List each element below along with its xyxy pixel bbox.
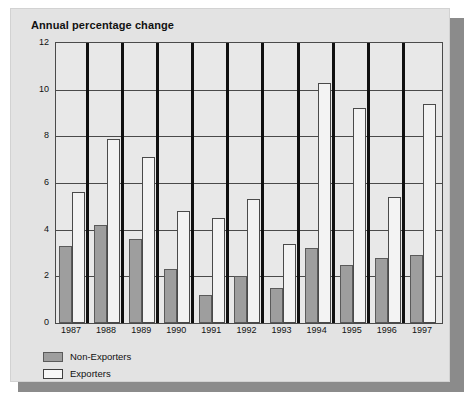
x-tick-label: 1990	[166, 325, 186, 335]
bar-non-exporters-1995	[340, 265, 353, 323]
bar-group-1997	[407, 43, 442, 323]
y-tick-label: 0	[44, 317, 49, 327]
group-divider	[332, 43, 335, 323]
bar-non-exporters-1997	[410, 255, 423, 323]
x-tick-label: 1991	[201, 325, 221, 335]
x-tick-label: 1989	[131, 325, 151, 335]
legend-label: Non-Exporters	[70, 351, 131, 362]
bar-exporters-1993	[283, 244, 296, 323]
bar-group-1992	[231, 43, 266, 323]
chart-panel: Annual percentage change 024681012 19871…	[10, 8, 450, 382]
legend-item-nonexp: Non-Exporters	[43, 349, 131, 364]
bar-non-exporters-1991	[199, 295, 212, 323]
group-divider	[402, 43, 405, 323]
y-tick-label: 12	[39, 37, 49, 47]
bar-group-1989	[126, 43, 161, 323]
group-divider	[86, 43, 89, 323]
bar-exporters-1994	[318, 83, 331, 323]
bar-non-exporters-1994	[305, 248, 318, 323]
bar-group-1987	[56, 43, 91, 323]
bar-exporters-1991	[212, 218, 225, 323]
x-tick-label: 1996	[377, 325, 397, 335]
bar-non-exporters-1990	[164, 269, 177, 323]
x-tick-label: 1994	[307, 325, 327, 335]
x-tick-label: 1993	[272, 325, 292, 335]
bar-group-1988	[91, 43, 126, 323]
x-tick-label: 1988	[96, 325, 116, 335]
bar-group-1994	[302, 43, 337, 323]
bar-group-1995	[337, 43, 372, 323]
x-tick-label: 1987	[61, 325, 81, 335]
bars-layer	[56, 43, 442, 323]
x-axis: 1987198819891990199119921993199419951996…	[55, 325, 441, 341]
plot-area	[55, 42, 443, 324]
legend-swatch-icon	[43, 352, 63, 362]
bar-exporters-1989	[142, 157, 155, 323]
bar-exporters-1996	[388, 197, 401, 323]
group-divider	[156, 43, 159, 323]
y-axis: 024681012	[11, 9, 55, 381]
group-divider	[191, 43, 194, 323]
group-divider	[121, 43, 124, 323]
y-tick-label: 2	[44, 270, 49, 280]
bar-non-exporters-1992	[234, 276, 247, 323]
group-divider	[261, 43, 264, 323]
legend-item-exp: Exporters	[43, 366, 131, 381]
bar-exporters-1992	[247, 199, 260, 323]
bar-group-1991	[196, 43, 231, 323]
group-divider	[297, 43, 300, 323]
bar-group-1993	[267, 43, 302, 323]
group-divider	[367, 43, 370, 323]
bar-non-exporters-1989	[129, 239, 142, 323]
bar-non-exporters-1996	[375, 258, 388, 323]
bar-exporters-1988	[107, 139, 120, 323]
legend-label: Exporters	[70, 368, 111, 379]
legend-swatch-icon	[43, 369, 63, 379]
y-tick-label: 6	[44, 177, 49, 187]
bar-non-exporters-1988	[94, 225, 107, 323]
x-tick-label: 1997	[412, 325, 432, 335]
bar-exporters-1995	[353, 108, 366, 323]
bar-non-exporters-1993	[270, 288, 283, 323]
x-tick-label: 1995	[342, 325, 362, 335]
y-tick-label: 8	[44, 130, 49, 140]
x-tick-label: 1992	[236, 325, 256, 335]
bar-exporters-1997	[423, 104, 436, 323]
bar-non-exporters-1987	[59, 246, 72, 323]
bar-exporters-1987	[72, 192, 85, 323]
chart-figure: Annual percentage change 024681012 19871…	[0, 0, 468, 396]
bar-group-1996	[372, 43, 407, 323]
bar-exporters-1990	[177, 211, 190, 323]
group-divider	[226, 43, 229, 323]
y-tick-label: 4	[44, 224, 49, 234]
chart-legend: Non-ExportersExporters	[43, 349, 131, 383]
y-tick-label: 10	[39, 84, 49, 94]
bar-group-1990	[161, 43, 196, 323]
